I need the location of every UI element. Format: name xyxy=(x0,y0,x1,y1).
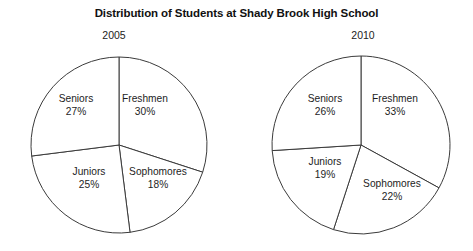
slice-label: Juniors25% xyxy=(29,166,149,191)
slice-label: Juniors19% xyxy=(265,156,385,181)
slice-label-name: Juniors xyxy=(265,156,385,169)
slice-label: Seniors26% xyxy=(265,93,385,118)
slice-label-name: Seniors xyxy=(16,93,136,106)
slice-label: Seniors27% xyxy=(16,93,136,118)
slice-label-percent: 26% xyxy=(265,106,385,119)
pie-chart-figure: Distribution of Students at Shady Brook … xyxy=(0,0,473,251)
slice-label: Sophomores22% xyxy=(332,178,452,203)
pie-wedges-layer xyxy=(0,0,473,251)
slice-label-percent: 27% xyxy=(16,106,136,119)
slice-label-percent: 19% xyxy=(265,169,385,182)
slice-label-percent: 25% xyxy=(29,179,149,192)
slice-label-name: Seniors xyxy=(265,93,385,106)
slice-label-percent: 22% xyxy=(332,191,452,204)
slice-label-name: Juniors xyxy=(29,166,149,179)
